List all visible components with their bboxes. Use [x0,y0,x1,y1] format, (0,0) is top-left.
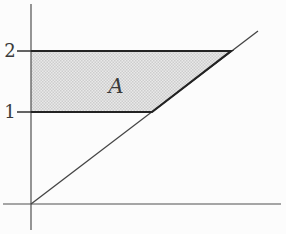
diagram-canvas: 2 1 A [0,0,286,234]
y-axis-label-2: 2 [4,40,15,61]
figure-background [0,0,286,234]
region-a-label: A [106,74,123,98]
math-diagram: 2 1 A [0,0,286,234]
y-axis-label-1: 1 [4,101,15,122]
